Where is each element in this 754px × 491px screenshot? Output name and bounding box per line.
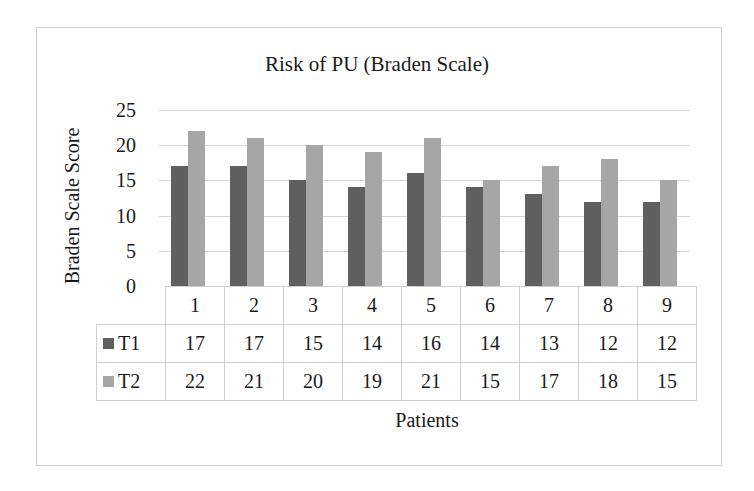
table-cell: 12: [638, 325, 697, 363]
y-tick-label: 20: [96, 135, 136, 155]
y-tick-label: 25: [96, 100, 136, 120]
table-corner: [97, 287, 166, 325]
bar-t2-patient-5: [424, 138, 441, 286]
category-label: 3: [284, 287, 343, 325]
legend-swatch-icon: [103, 376, 114, 387]
table-cell: 17: [520, 363, 579, 401]
table-cell: 21: [402, 363, 461, 401]
bar-t1-patient-8: [584, 202, 601, 286]
table-cell: 15: [638, 363, 697, 401]
table-row: T1171715141614131212: [97, 325, 697, 363]
bar-t1-patient-7: [525, 194, 542, 286]
category-label: 8: [579, 287, 638, 325]
gridline: [159, 110, 690, 111]
table-cell: 22: [166, 363, 225, 401]
legend-entry: T2: [97, 363, 166, 401]
table-cell: 17: [166, 325, 225, 363]
category-label: 2: [225, 287, 284, 325]
bar-t1-patient-6: [466, 187, 483, 286]
table-cell: 20: [284, 363, 343, 401]
table-cell: 18: [579, 363, 638, 401]
legend-label: T2: [118, 370, 140, 392]
legend-swatch-icon: [103, 338, 114, 349]
table-cell: 19: [343, 363, 402, 401]
table-cell: 15: [461, 363, 520, 401]
data-table: 123456789T1171715141614131212T2222120192…: [96, 286, 697, 401]
bar-t2-patient-2: [247, 138, 264, 286]
category-label: 1: [166, 287, 225, 325]
bar-t1-patient-3: [289, 180, 306, 286]
bar-t1-patient-2: [230, 166, 247, 286]
table-cell: 13: [520, 325, 579, 363]
table-cell: 21: [225, 363, 284, 401]
bar-t2-patient-4: [365, 152, 382, 286]
table-cell: 15: [284, 325, 343, 363]
table-cell: 12: [579, 325, 638, 363]
bar-t2-patient-7: [542, 166, 559, 286]
bar-t2-patient-8: [601, 159, 618, 286]
bar-t1-patient-1: [171, 166, 188, 286]
table-cell: 16: [402, 325, 461, 363]
bar-t1-patient-5: [407, 173, 424, 286]
bar-t1-patient-9: [643, 202, 660, 286]
bar-t2-patient-1: [188, 131, 205, 286]
bar-t1-patient-4: [348, 187, 365, 286]
table-cell: 17: [225, 325, 284, 363]
category-label: 4: [343, 287, 402, 325]
y-tick-label: 15: [96, 170, 136, 190]
category-label: 7: [520, 287, 579, 325]
bar-t2-patient-9: [660, 180, 677, 286]
legend-label: T1: [118, 332, 140, 354]
legend-entry: T1: [97, 325, 166, 363]
x-axis-label: Patients: [0, 409, 754, 432]
table-cell: 14: [461, 325, 520, 363]
bar-t2-patient-3: [306, 145, 323, 286]
table-row: T2222120192115171815: [97, 363, 697, 401]
y-tick-label: 5: [96, 241, 136, 261]
table-cell: 14: [343, 325, 402, 363]
y-tick-label: 10: [96, 206, 136, 226]
bar-t2-patient-6: [483, 180, 500, 286]
category-label: 9: [638, 287, 697, 325]
y-axis-label: Braden Scale Score: [61, 128, 84, 285]
chart-title: Risk of PU (Braden Scale): [0, 52, 754, 77]
category-label: 5: [402, 287, 461, 325]
category-label: 6: [461, 287, 520, 325]
